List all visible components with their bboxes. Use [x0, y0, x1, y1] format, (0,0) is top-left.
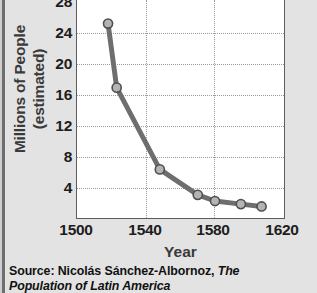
source-note: Source: Nicolás Sánchez-Albornoz, The Po… — [9, 264, 309, 293]
plot-area — [76, 0, 285, 219]
y-axis-ticks: 28 24 20 16 12 8 4 — [28, 0, 72, 219]
plot-inner — [77, 0, 284, 218]
x-axis-title: Year — [76, 243, 285, 261]
series-layer — [77, 0, 284, 218]
source-title-line2: Population of Latin America — [9, 279, 170, 293]
data-point-1607 — [257, 202, 266, 211]
data-point-1595 — [236, 200, 245, 209]
x-tick-1540: 1540 — [115, 221, 175, 239]
x-tick-1620: 1620 — [252, 221, 312, 239]
data-point-1570 — [193, 190, 202, 199]
left-edge-rule — [2, 0, 5, 293]
y-axis-title-line1: Millions of People — [10, 0, 29, 179]
series-markers — [103, 19, 266, 211]
data-point-1518 — [103, 19, 112, 28]
data-point-1580 — [210, 196, 219, 205]
y-tick-20: 20 — [32, 55, 72, 73]
data-point-1548 — [155, 165, 164, 174]
x-tick-1500: 1500 — [46, 221, 106, 239]
y-tick-12: 12 — [32, 117, 72, 135]
y-tick-28: 28 — [32, 0, 72, 11]
series-line-population — [108, 24, 262, 207]
y-tick-4: 4 — [32, 179, 72, 197]
data-point-1523 — [112, 83, 121, 92]
source-prefix: Source: Nicolás Sánchez-Albornoz, — [9, 264, 218, 278]
y-tick-8: 8 — [32, 148, 72, 166]
y-tick-16: 16 — [32, 86, 72, 104]
x-tick-1580: 1580 — [183, 221, 243, 239]
chart-figure: Millions of People (estimated) 28 24 20 … — [0, 0, 317, 293]
source-title-line1: The — [218, 264, 240, 278]
y-tick-24: 24 — [32, 24, 72, 42]
